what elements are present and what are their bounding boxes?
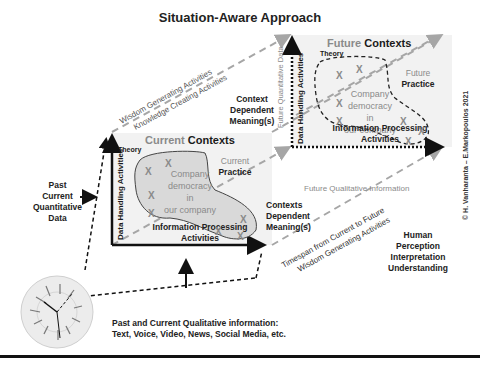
x-marker: X: [336, 98, 343, 109]
contexts-dependent-bottom: Contexts Dependent Meaning(s): [266, 200, 322, 233]
future-y-axis-label: Data Handling Activities: [296, 53, 305, 144]
x-marker: X: [215, 226, 222, 237]
x-marker: X: [237, 231, 244, 242]
current-center-text: Company democracy in our company: [155, 168, 225, 216]
x-marker: X: [148, 190, 155, 201]
knowledge-wheel: [21, 276, 93, 348]
future-theory-label: Theory: [320, 50, 343, 57]
x-marker: X: [356, 64, 363, 75]
bottom-divider: [0, 355, 480, 358]
x-marker: X: [336, 70, 343, 81]
current-y-axis-label: Data Handling Activities: [116, 149, 125, 240]
current-context-title: Current Contexts: [145, 134, 235, 146]
future-practice-label: Future Practice: [393, 68, 443, 90]
x-marker: X: [145, 166, 152, 177]
human-perception-label: Human Perception Interpretation Understa…: [378, 230, 458, 274]
x-marker: X: [148, 208, 155, 219]
x-marker: X: [418, 126, 425, 137]
x-marker: X: [400, 116, 407, 127]
future-context-title: Future Contexts: [327, 37, 411, 49]
x-marker: X: [405, 136, 412, 147]
context-dependent-top: Context Dependent Meaning(s): [222, 94, 282, 127]
x-marker: X: [336, 116, 343, 127]
x-marker: X: [165, 158, 172, 169]
copyright-label: © H. Vanharanta – E.Markopoulos 2021: [462, 91, 469, 220]
future-qualitative-label: Future Qualitative Information: [304, 184, 409, 193]
past-qualitative-label: Past and Current Qualitative information…: [112, 318, 286, 340]
x-marker: X: [240, 214, 247, 225]
past-quantitative-label: Past Current Quantitative Data: [30, 180, 85, 224]
